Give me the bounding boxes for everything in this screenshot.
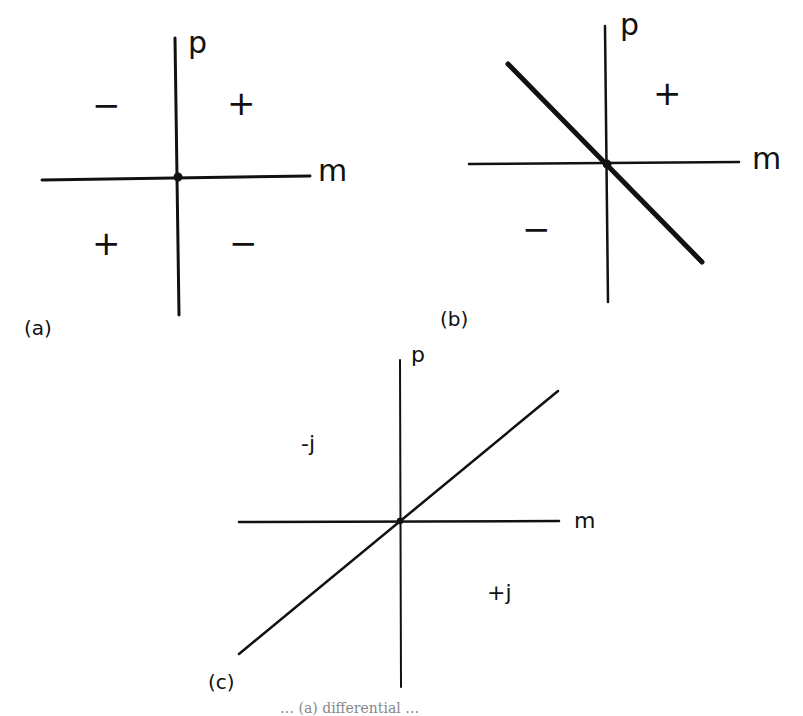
diagram-b-panel-label: (b) [440, 309, 468, 329]
diagram-b-m-label: m [752, 144, 781, 174]
diagram-b-origin [603, 160, 611, 168]
diagram-a-panel-label: (a) [24, 318, 52, 338]
diagram-c-plus-j-region: +j [487, 582, 512, 604]
diagram-a-origin [175, 174, 181, 180]
diagram-b-p-label: p [620, 10, 639, 40]
diagram-a-axes [42, 38, 310, 315]
diagram-a-top-left-sign: − [92, 88, 121, 122]
diagram-a-m-label: m [318, 156, 347, 186]
diagram-b-minus-region: − [522, 212, 551, 246]
diagram-a-top-right-sign: + [227, 86, 256, 120]
diagram-c-p-label: p [411, 344, 425, 366]
diagram-c-axes [239, 360, 559, 687]
diagram-c-m-label: m [574, 510, 595, 532]
figure-caption-fragment: … (a) differential … [280, 700, 419, 716]
diagram-a-bottom-left-sign: + [92, 226, 121, 260]
diagram-c-origin [397, 518, 403, 524]
diagram-c-panel-label: (c) [208, 672, 235, 692]
diagram-b-axes [469, 26, 739, 302]
diagram-c-minus-j-region: -j [301, 433, 315, 455]
diagram-a-bottom-right-sign: − [229, 226, 258, 260]
diagram-a-p-label: p [188, 28, 207, 58]
diagram-b-plus-region: + [653, 76, 682, 110]
